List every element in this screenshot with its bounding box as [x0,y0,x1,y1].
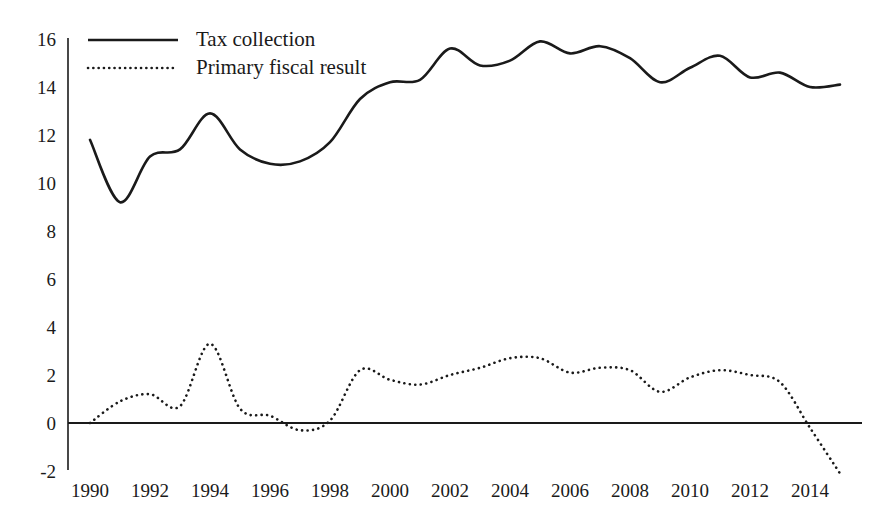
y-tick-label: 14 [37,77,57,98]
y-tick-label: 10 [37,173,56,194]
x-tick-label-group: 1990199219941996199820002002200420062008… [71,480,830,501]
x-tick-label: 2008 [611,480,649,501]
x-tick-label: 2006 [551,480,589,501]
x-tick-label: 1998 [311,480,349,501]
y-tick-label: 4 [47,317,57,338]
x-tick-label: 1994 [191,480,230,501]
x-tick-label: 1992 [131,480,169,501]
series-group [90,41,840,473]
y-tick-label: 16 [37,29,56,50]
chart-container: -20246810121416 199019921994199619982000… [0,0,874,522]
x-tick-label: 2010 [671,480,709,501]
y-axis: -20246810121416 [37,29,68,482]
y-tick-label: -2 [40,461,56,482]
legend-label: Primary fiscal result [196,55,366,79]
legend-label: Tax collection [196,27,316,51]
x-tick-label: 1996 [251,480,289,501]
line-chart: -20246810121416 199019921994199619982000… [0,0,874,522]
series-line-primary-fiscal-result [90,344,840,474]
x-tick-label: 2012 [731,480,769,501]
x-tick-label: 2000 [371,480,409,501]
y-tick-label: 8 [47,221,57,242]
x-tick-label: 2004 [491,480,530,501]
x-axis: 1990199219941996199820002002200420062008… [71,480,830,501]
y-tick-label: 12 [37,125,56,146]
x-tick-label: 2014 [791,480,830,501]
y-tick-label: 6 [47,269,57,290]
y-tick-label: 0 [47,413,57,434]
x-tick-label: 1990 [71,480,109,501]
x-tick-label: 2002 [431,480,469,501]
y-tick-label-group: -20246810121416 [37,29,57,482]
y-tick-label: 2 [47,365,57,386]
chart-legend: Tax collectionPrimary fiscal result [88,27,366,79]
